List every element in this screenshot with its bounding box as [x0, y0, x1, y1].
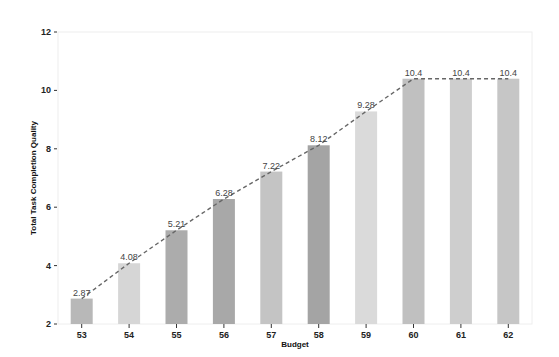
x-tick-label: 58 — [314, 330, 324, 340]
x-tick-label: 60 — [408, 330, 418, 340]
bar-value-label: 10.4 — [500, 68, 518, 78]
y-tick-label: 12 — [41, 27, 51, 37]
y-axis: 24681012 — [41, 27, 57, 329]
x-tick-label: 54 — [124, 330, 134, 340]
bar-value-label: 2.87 — [73, 288, 91, 298]
bar — [450, 79, 472, 324]
x-tick-label: 55 — [171, 330, 181, 340]
bar — [260, 172, 282, 324]
x-tick-label: 56 — [219, 330, 229, 340]
bar — [497, 79, 519, 324]
bar-value-label: 10.4 — [452, 68, 470, 78]
y-tick-label: 10 — [41, 85, 51, 95]
bar-value-label: 8.12 — [310, 134, 328, 144]
y-axis-title: Total Task Completion Quality — [29, 120, 38, 234]
bar — [118, 263, 140, 324]
bar-value-label: 10.4 — [405, 68, 423, 78]
x-tick-label: 61 — [456, 330, 466, 340]
x-axis: 53545556575859606162 — [77, 324, 514, 340]
y-tick-label: 4 — [46, 261, 51, 271]
bar — [213, 199, 235, 324]
bar — [166, 230, 188, 324]
bar-value-label: 6.28 — [215, 188, 233, 198]
x-tick-label: 59 — [361, 330, 371, 340]
bar — [403, 79, 425, 324]
bar — [71, 299, 93, 324]
x-tick-label: 57 — [266, 330, 276, 340]
bar-value-label: 7.22 — [263, 161, 281, 171]
y-tick-label: 2 — [46, 319, 51, 329]
bar — [355, 111, 377, 324]
x-tick-label: 62 — [503, 330, 513, 340]
bar — [308, 145, 330, 324]
bar-value-label: 5.21 — [168, 219, 186, 229]
bar-chart: 24681012 2.874.085.216.287.228.129.2810.… — [0, 0, 559, 357]
y-tick-label: 6 — [46, 202, 51, 212]
x-tick-label: 53 — [77, 330, 87, 340]
bar-value-label: 9.28 — [357, 100, 375, 110]
y-tick-label: 8 — [46, 144, 51, 154]
x-axis-title: Budget — [281, 340, 309, 349]
bar-value-label: 4.08 — [120, 252, 138, 262]
